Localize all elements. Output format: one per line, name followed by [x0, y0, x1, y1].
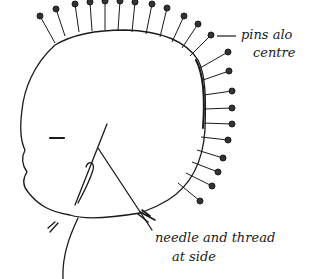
needle-label-line2: at side: [172, 250, 216, 264]
pins-label-line2: centre: [253, 46, 295, 60]
head-outline: [21, 30, 206, 218]
ear: [78, 163, 93, 203]
guide-line: [75, 124, 152, 230]
neck: [63, 218, 78, 279]
needle: [138, 210, 155, 222]
needle-label-line1: needle and thread: [155, 231, 275, 245]
pins-label-line1: pins alo: [241, 28, 292, 42]
